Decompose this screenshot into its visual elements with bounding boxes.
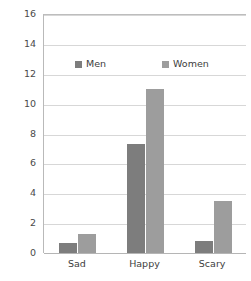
gridline-6	[44, 164, 246, 165]
x-label-sad: Sad	[43, 258, 111, 269]
gridline-10	[44, 105, 246, 106]
bar-chart: 1614121086420 SadHappyScary Men Women	[0, 0, 251, 281]
y-tick-label-10: 10	[6, 99, 36, 109]
gridline-14	[44, 45, 246, 46]
bar-sad-women	[78, 234, 96, 253]
plot-area	[43, 14, 246, 253]
gridline-12	[44, 75, 246, 76]
y-tick-label-4: 4	[6, 188, 36, 198]
y-tick-label-16: 16	[6, 9, 36, 19]
x-label-happy: Happy	[111, 258, 179, 269]
bar-happy-men	[127, 144, 145, 253]
y-tick-label-14: 14	[6, 39, 36, 49]
y-tick-label-2: 2	[6, 218, 36, 228]
bar-happy-women	[146, 89, 164, 253]
gridline-16	[44, 15, 246, 16]
gridline-8	[44, 135, 246, 136]
x-label-scary: Scary	[178, 258, 246, 269]
y-tick-label-6: 6	[6, 158, 36, 168]
y-tick-label-8: 8	[6, 129, 36, 139]
gridline-4	[44, 194, 246, 195]
bar-sad-men	[59, 243, 77, 253]
bar-scary-women	[214, 201, 232, 253]
y-tick-label-0: 0	[6, 248, 36, 258]
bar-scary-men	[195, 241, 213, 253]
y-tick-label-12: 12	[6, 69, 36, 79]
